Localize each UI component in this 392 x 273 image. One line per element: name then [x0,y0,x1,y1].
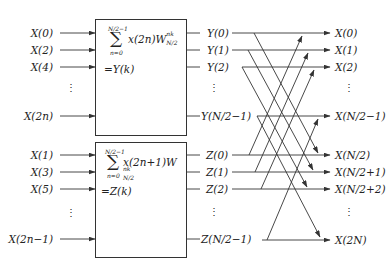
top-term-text: x(2n)W [128,33,166,45]
input-label: X(2n) [24,110,53,122]
input-label: X(3) [31,166,53,178]
bottom-result-label: =Z(k) [101,185,132,197]
bottom-sum-lower-limit: n=0 [107,172,120,179]
ellipsis-vertical: ⋮ [344,210,350,214]
bottom-term-text: x(2n+1)W [123,156,177,168]
butterfly-diagram-lines [0,0,392,273]
top-result-label: =Y(k) [104,63,134,75]
y-output-label: Y(2) [207,61,229,73]
top-sum-term: x(2n)W nk N/2 [128,33,178,45]
input-label: X(1) [31,149,53,161]
z-output-label: Z(N/2−1) [201,233,251,245]
ellipsis-vertical: ⋮ [66,86,72,90]
bottom-twiddle-sup: nk [123,165,131,172]
final-output-label: X(N/2) [335,149,370,161]
final-output-label: X(0) [335,27,357,39]
final-output-label: X(N/2+2) [335,183,386,195]
bottom-dft-block: N/2−1 ∑ n=0 x(2n+1)W nk N/2 =Z(k) [95,142,187,258]
input-label: X(5) [31,183,53,195]
final-output-label: X(N/2−1) [335,110,386,122]
top-twiddle-sub: N/2 [166,39,177,46]
ellipsis-vertical: ⋮ [209,210,215,214]
top-twiddle-sup: nk [166,30,174,37]
ellipsis-vertical: ⋮ [209,86,215,90]
final-output-label: X(2) [335,61,357,73]
z-output-label: Z(2) [206,183,228,195]
top-sum-symbol: ∑ [110,30,122,47]
input-label: X(4) [31,61,53,73]
bottom-sum-term: x(2n+1)W nk N/2 [123,156,186,180]
y-output-label: Y(N/2−1) [201,110,251,122]
top-sum-lower-limit: n=0 [110,49,123,56]
final-output-label: X(N/2+1) [335,166,386,178]
bottom-sum-symbol: ∑ [107,153,119,170]
y-output-label: Y(1) [207,44,229,56]
final-output-label: X(2N) [335,234,367,246]
y-output-label: Y(0) [207,27,229,39]
final-output-label: X(1) [335,44,357,56]
input-label: X(2n−1) [8,233,53,245]
z-output-label: Z(1) [206,166,228,178]
input-label: X(2) [31,44,53,56]
bottom-twiddle-sub: N/2 [123,174,134,181]
ellipsis-vertical: ⋮ [344,86,350,90]
ellipsis-vertical: ⋮ [66,211,72,215]
z-output-label: Z(0) [206,149,228,161]
input-label: X(0) [31,27,53,39]
top-dft-block: N/2−1 ∑ n=0 x(2n)W nk N/2 =Y(k) [95,19,187,136]
